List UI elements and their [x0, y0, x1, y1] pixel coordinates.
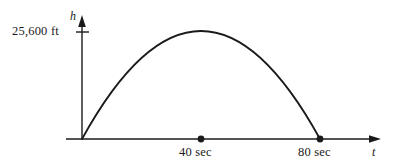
x-axis-tick-label-80sec: 80 sec — [298, 146, 331, 159]
h-axis-name-label: h — [70, 10, 76, 22]
trajectory-curve — [82, 31, 320, 139]
up-arrow-icon — [78, 15, 86, 27]
right-arrow-icon — [369, 135, 381, 143]
projectile-height-figure: 25,600 ft 40 sec 80 sec h t — [0, 0, 395, 168]
marker-dot-40sec — [198, 136, 205, 143]
marker-dot-80sec — [317, 136, 324, 143]
y-axis-tick-label-peak-height: 25,600 ft — [12, 25, 59, 38]
x-axis-tick-label-40sec: 40 sec — [179, 146, 212, 159]
t-axis-name-label: t — [372, 146, 375, 158]
plot-canvas — [0, 0, 395, 168]
